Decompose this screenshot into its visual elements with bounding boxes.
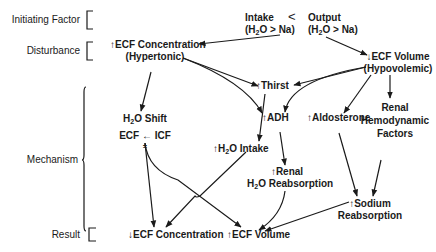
output-label: Output	[308, 12, 358, 24]
node-h2o-shift: H2O Shift ECF ← ICF ±	[115, 112, 175, 149]
stage-result: Result	[0, 229, 80, 241]
disturbance-bracket	[87, 42, 93, 60]
stage-initiating-factor: Initiating Factor	[0, 14, 80, 26]
initiating-bracket	[87, 11, 93, 29]
intake-ratio: (H2O > Na)	[245, 24, 295, 39]
output-ratio: (H2O > Na)	[308, 24, 358, 39]
h2o-reabsorption-label: H2O Reabsorption	[247, 178, 327, 193]
node-renal-h2o-reabsorption: ↑Renal H2O Reabsorption	[247, 166, 327, 193]
reabsorption-label: Reabsorption	[335, 210, 405, 222]
node-sodium-reabsorption: ↑Sodium Reabsorption	[335, 198, 405, 222]
ecf-concentration-up-label: ↑ECF Concentration	[110, 39, 200, 51]
factors-label: Factors	[360, 127, 430, 140]
node-ecf-concentration-down: ↓ECF Concentration	[128, 229, 224, 241]
sodium-label: ↑Sodium	[335, 198, 405, 210]
hemodynamic-label: Hemodynamic	[360, 114, 430, 127]
result-bracket	[89, 228, 96, 241]
mechanism-brace	[82, 87, 86, 231]
node-adh: ↑ADH	[262, 112, 289, 124]
node-thirst: ↑Thirst	[256, 80, 289, 92]
ecf-icf-label: ECF ← ICF	[115, 129, 175, 143]
less-than-symbol: <	[288, 11, 296, 23]
stage-disturbance: Disturbance	[0, 45, 80, 57]
node-h2o-intake: ↑H2O Intake	[213, 143, 269, 158]
node-ecf-volume-up: ↑ECF Volume	[227, 229, 290, 241]
node-ecf-volume-down: ↓ECF Volume (Hypovolemic)	[362, 51, 434, 75]
h2o-shift-label: H2O Shift	[115, 112, 175, 129]
node-renal-hemodynamic: Renal Hemodynamic Factors	[360, 101, 430, 140]
stage-mechanism: Mechanism	[0, 154, 78, 166]
plus-minus-label: ±	[115, 143, 175, 149]
node-output: Output (H2O > Na)	[308, 12, 358, 39]
renal-label: Renal	[360, 101, 430, 114]
hypovolemic-label: (Hypovolemic)	[362, 63, 434, 75]
renal-up-label: ↑Renal	[247, 166, 327, 178]
ecf-volume-down-label: ↓ECF Volume	[362, 51, 434, 63]
node-ecf-concentration-up: ↑ECF Concentration (Hypertonic)	[110, 39, 200, 63]
hypertonic-label: (Hypertonic)	[110, 51, 200, 63]
